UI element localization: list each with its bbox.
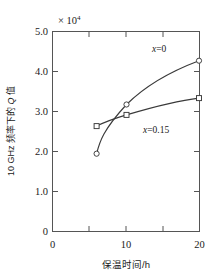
x-tick-label-0: 0	[50, 239, 55, 250]
chart-canvas: 5.0 4.0 3.0 2.0 1.0 0 0 10 20 × 104 保温时间…	[0, 0, 219, 280]
y-axis-ticks	[53, 32, 59, 232]
y-axis-title-symbol: Q	[6, 97, 16, 104]
data-point-marker	[124, 102, 129, 107]
y-axis-title: 10 GHz 频率下的 Q 值	[5, 86, 16, 176]
y-tick-label-2: 2.0	[35, 146, 48, 157]
x-tick-label-20: 20	[194, 239, 205, 250]
y-tick-label-0: 0	[43, 226, 48, 237]
exponent-base: × 10	[58, 15, 77, 26]
y-tick-label-1: 1.0	[35, 186, 48, 197]
y-tick-label-5: 5.0	[35, 26, 48, 37]
x-axis-ticks-top	[89, 32, 163, 38]
y-tick-label-4: 4.0	[35, 66, 48, 77]
data-point-marker	[196, 58, 201, 63]
y-tick-label-3: 3.0	[35, 106, 48, 117]
series-markers-x0	[94, 58, 202, 156]
x-axis-ticks	[53, 226, 200, 232]
series-annotation-x0-val: =0	[156, 44, 166, 54]
y-axis-title-suffix: 值	[5, 86, 16, 98]
chart-figure: 5.0 4.0 3.0 2.0 1.0 0 0 10 20 × 104 保温时间…	[0, 0, 219, 280]
data-point-marker	[197, 96, 202, 101]
data-point-marker	[94, 124, 99, 129]
y-axis-ticks-right	[194, 72, 200, 192]
y-axis-title-prefix: 10 GHz 频率下的	[5, 105, 16, 177]
series-annotation-x015: x=0.15	[142, 125, 169, 135]
exponent-power: 4	[77, 14, 81, 22]
data-point-marker	[124, 112, 129, 117]
series-annotation-x0: x=0	[151, 44, 167, 54]
y-axis-exponent: × 104	[58, 14, 81, 26]
series-curve-x0	[97, 61, 199, 154]
series-annotation-x015-val: =0.15	[147, 125, 169, 135]
x-tick-label-10: 10	[121, 239, 132, 250]
data-point-marker	[94, 151, 99, 156]
x-axis-title: 保温时间/h	[102, 259, 150, 270]
plot-frame	[53, 32, 200, 232]
